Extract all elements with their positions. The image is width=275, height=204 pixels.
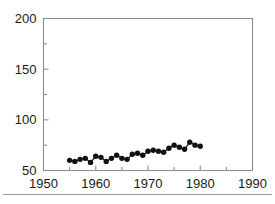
data-point	[171, 142, 176, 147]
y-tick-label: 100	[15, 112, 37, 127]
x-tick-label: 1990	[238, 176, 267, 191]
y-axis-ticks	[44, 19, 49, 171]
data-point	[145, 149, 150, 154]
x-axis-ticks	[44, 166, 253, 171]
data-series	[67, 139, 203, 165]
data-point	[98, 155, 103, 160]
data-point	[177, 144, 182, 149]
x-tick-label: 1970	[134, 176, 163, 191]
x-tick-label: 1960	[81, 176, 110, 191]
data-point	[83, 156, 88, 161]
plot-frame	[44, 19, 253, 171]
y-axis-tick-labels: 50100150200	[15, 11, 37, 178]
chart-figure: 50100150200 19501960197019801990	[0, 0, 275, 204]
data-point	[130, 152, 135, 157]
y-tick-label: 150	[15, 62, 37, 77]
data-point	[77, 157, 82, 162]
data-point	[104, 159, 109, 164]
data-point	[109, 156, 114, 161]
data-point	[88, 160, 93, 165]
x-tick-label: 1950	[29, 176, 58, 191]
x-tick-label: 1980	[186, 176, 215, 191]
data-point	[166, 146, 171, 151]
data-point	[140, 153, 145, 158]
data-point	[161, 150, 166, 155]
data-point	[156, 149, 161, 154]
data-point	[182, 147, 187, 152]
data-point	[151, 148, 156, 153]
data-point	[187, 139, 192, 144]
data-point	[192, 142, 197, 147]
data-point	[72, 159, 77, 164]
data-point	[198, 143, 203, 148]
data-point	[114, 153, 119, 158]
y-tick-label: 200	[15, 11, 37, 26]
footer-divider	[3, 194, 272, 195]
data-point	[135, 151, 140, 156]
data-point	[124, 157, 129, 162]
line-chart: 50100150200 19501960197019801990	[0, 0, 275, 204]
data-point	[67, 158, 72, 163]
data-point	[119, 156, 124, 161]
data-point	[93, 154, 98, 159]
x-axis-tick-labels: 19501960197019801990	[29, 176, 267, 191]
